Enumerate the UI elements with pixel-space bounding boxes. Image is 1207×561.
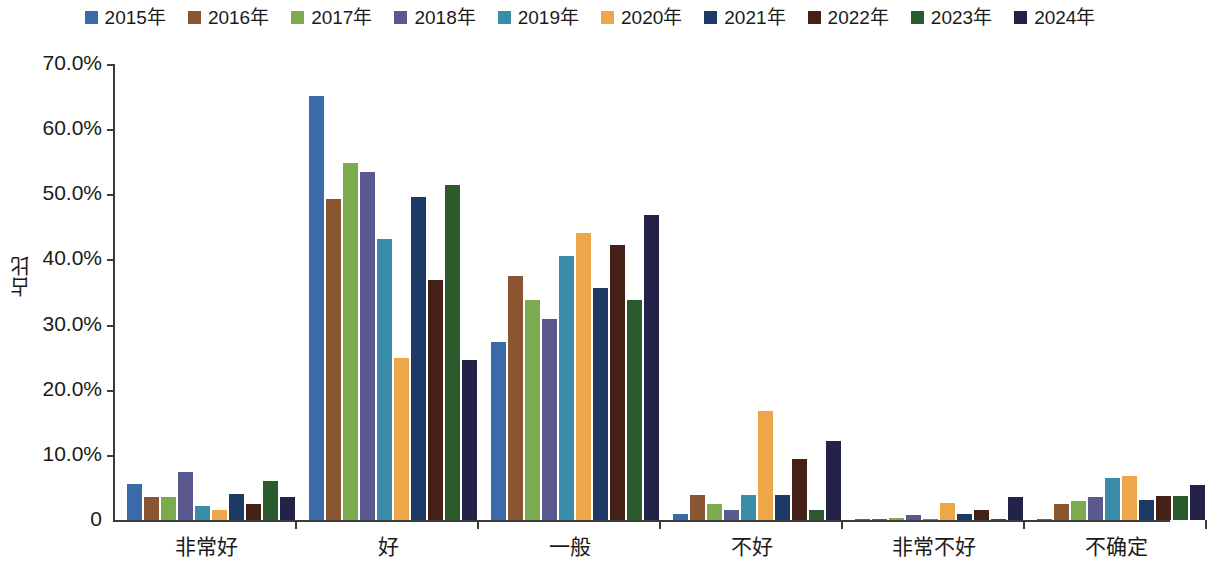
bar[interactable] bbox=[411, 197, 426, 520]
bar-group: 一般 bbox=[479, 64, 661, 520]
bar[interactable] bbox=[525, 300, 540, 520]
bar[interactable] bbox=[826, 441, 841, 520]
bar[interactable] bbox=[343, 163, 358, 520]
legend-item[interactable]: 2015年 bbox=[85, 8, 166, 27]
bar[interactable] bbox=[627, 300, 642, 520]
bar[interactable] bbox=[855, 519, 870, 520]
bar[interactable] bbox=[673, 514, 688, 520]
bar[interactable] bbox=[775, 495, 790, 520]
bar[interactable] bbox=[593, 288, 608, 520]
bar[interactable] bbox=[1054, 504, 1069, 520]
bar[interactable] bbox=[280, 497, 295, 520]
bar[interactable] bbox=[792, 459, 807, 520]
bar[interactable] bbox=[394, 358, 409, 520]
x-axis-label: 非常好 bbox=[115, 530, 297, 560]
legend-label: 2020年 bbox=[621, 8, 682, 27]
bar[interactable] bbox=[906, 515, 921, 520]
bar[interactable] bbox=[445, 185, 460, 520]
y-tick-mark bbox=[107, 455, 115, 457]
bar[interactable] bbox=[576, 233, 591, 520]
bar[interactable] bbox=[1156, 496, 1171, 520]
bar[interactable] bbox=[1190, 485, 1205, 520]
bar[interactable] bbox=[377, 239, 392, 520]
y-tick-mark bbox=[107, 129, 115, 131]
bar[interactable] bbox=[758, 411, 773, 520]
bar[interactable] bbox=[957, 514, 972, 520]
bar[interactable] bbox=[178, 472, 193, 520]
bar[interactable] bbox=[212, 510, 227, 520]
x-axis-label: 非常不好 bbox=[843, 530, 1025, 560]
bar[interactable] bbox=[974, 510, 989, 520]
bar-group: 不好 bbox=[661, 64, 843, 520]
y-tick-label: 20.0% bbox=[42, 377, 102, 401]
plot-area: 010.0%20.0%30.0%40.0%50.0%60.0%70.0% 非常好… bbox=[113, 64, 1170, 522]
y-tick-label: 0 bbox=[90, 507, 102, 531]
bar[interactable] bbox=[707, 504, 722, 520]
bar[interactable] bbox=[741, 495, 756, 520]
x-axis-label: 不好 bbox=[661, 530, 843, 560]
x-axis-label: 一般 bbox=[479, 530, 661, 560]
bar[interactable] bbox=[1008, 497, 1023, 520]
bar[interactable] bbox=[263, 481, 278, 520]
bar[interactable] bbox=[940, 503, 955, 520]
x-axis-group-separator bbox=[841, 520, 843, 529]
y-tick-mark bbox=[107, 325, 115, 327]
bar[interactable] bbox=[326, 199, 341, 520]
legend-swatch-icon bbox=[808, 11, 821, 24]
bar[interactable] bbox=[246, 504, 261, 520]
legend-item[interactable]: 2024年 bbox=[1014, 8, 1095, 27]
bar[interactable] bbox=[991, 519, 1006, 520]
bar[interactable] bbox=[542, 319, 557, 520]
bar[interactable] bbox=[360, 172, 375, 521]
bar-group: 不确定 bbox=[1025, 64, 1207, 520]
bar[interactable] bbox=[1122, 476, 1137, 520]
legend-item[interactable]: 2022年 bbox=[808, 8, 889, 27]
bar[interactable] bbox=[309, 96, 324, 520]
bar[interactable] bbox=[809, 510, 824, 520]
legend-swatch-icon bbox=[291, 11, 304, 24]
legend-item[interactable]: 2023年 bbox=[911, 8, 992, 27]
legend-item[interactable]: 2017年 bbox=[291, 8, 372, 27]
x-axis-group-separator bbox=[1023, 520, 1025, 529]
bar[interactable] bbox=[923, 519, 938, 520]
bar[interactable] bbox=[690, 495, 705, 520]
bar[interactable] bbox=[144, 497, 159, 520]
bar[interactable] bbox=[559, 256, 574, 520]
y-tick-label: 50.0% bbox=[42, 181, 102, 205]
legend-label: 2023年 bbox=[931, 8, 992, 27]
bar[interactable] bbox=[161, 497, 176, 520]
legend-item[interactable]: 2016年 bbox=[188, 8, 269, 27]
y-tick-label: 60.0% bbox=[42, 116, 102, 140]
bar[interactable] bbox=[889, 518, 904, 520]
bar[interactable] bbox=[610, 245, 625, 520]
legend-swatch-icon bbox=[498, 11, 511, 24]
legend-item[interactable]: 2021年 bbox=[704, 8, 785, 27]
legend-swatch-icon bbox=[1014, 11, 1027, 24]
bar[interactable] bbox=[1037, 519, 1052, 520]
y-tick-label: 30.0% bbox=[42, 312, 102, 336]
legend-item[interactable]: 2020年 bbox=[601, 8, 682, 27]
bar[interactable] bbox=[1088, 497, 1103, 520]
bar[interactable] bbox=[428, 280, 443, 520]
bar-group: 非常不好 bbox=[843, 64, 1025, 520]
bar[interactable] bbox=[644, 215, 659, 520]
bar[interactable] bbox=[229, 494, 244, 520]
bar[interactable] bbox=[724, 510, 739, 520]
legend-item[interactable]: 2019年 bbox=[498, 8, 579, 27]
bar[interactable] bbox=[508, 276, 523, 520]
bar[interactable] bbox=[1173, 496, 1188, 520]
y-tick-mark bbox=[107, 194, 115, 196]
bar[interactable] bbox=[195, 506, 210, 520]
bar[interactable] bbox=[872, 519, 887, 520]
bar[interactable] bbox=[491, 342, 506, 520]
bar[interactable] bbox=[1139, 500, 1154, 520]
legend-item[interactable]: 2018年 bbox=[394, 8, 475, 27]
bar[interactable] bbox=[127, 484, 142, 520]
bar[interactable] bbox=[462, 360, 477, 520]
bar[interactable] bbox=[1105, 478, 1120, 520]
y-tick-label: 40.0% bbox=[42, 246, 102, 270]
x-axis-group-separator bbox=[295, 520, 297, 529]
bar[interactable] bbox=[1071, 501, 1086, 520]
y-tick-label: 70.0% bbox=[42, 51, 102, 75]
